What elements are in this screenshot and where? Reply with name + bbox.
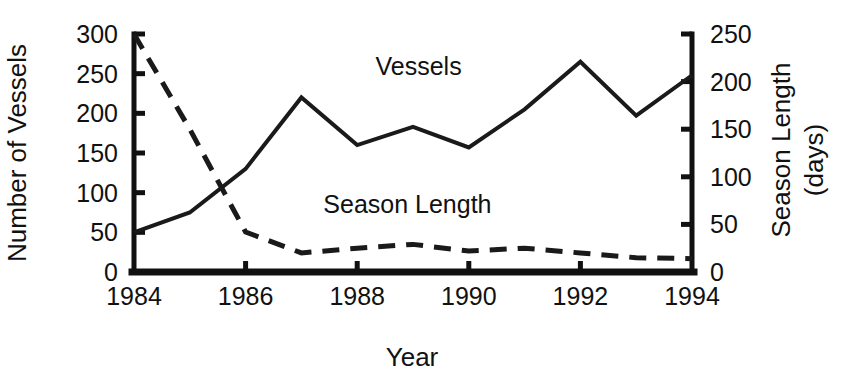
bottom-tick-label: 1990 <box>441 282 497 310</box>
right-tick-label: 200 <box>710 68 752 96</box>
left-tick-label: 300 <box>76 20 118 48</box>
bottom-tick-label: 1986 <box>218 282 274 310</box>
chart-container: 050100150200250300 198419861988199019921… <box>0 0 851 383</box>
bottom-tick-label: 1992 <box>553 282 609 310</box>
left-tick-label: 50 <box>90 218 118 246</box>
left-tick-label: 150 <box>76 139 118 167</box>
left-axis-tick-labels: 050100150200250300 <box>76 20 118 286</box>
bottom-tick-label: 1984 <box>106 282 162 310</box>
series-label-vessels: Vessels <box>375 52 461 80</box>
right-tick-label: 0 <box>710 258 724 286</box>
right-tick-label: 150 <box>710 115 752 143</box>
bottom-axis-group: 198419861988199019921994 <box>106 261 720 310</box>
left-tick-label: 100 <box>76 179 118 207</box>
bottom-axis-title: Year <box>386 342 439 372</box>
right-axis-title-line2: (days) <box>799 124 829 196</box>
left-tick-label: 200 <box>76 99 118 127</box>
right-axis-title-line1: Season Length <box>766 63 796 238</box>
right-tick-label: 250 <box>710 20 752 48</box>
right-tick-label: 50 <box>710 210 738 238</box>
left-tick-label: 250 <box>76 60 118 88</box>
series-label-season-length: Season Length <box>323 190 491 218</box>
right-axis-tick-labels: 050100150200250 <box>710 20 752 286</box>
bottom-tick-label: 1994 <box>664 282 720 310</box>
bottom-axis-tick-labels: 198419861988199019921994 <box>106 282 720 310</box>
right-tick-label: 100 <box>710 163 752 191</box>
left-axis-group: 050100150200250300 <box>76 20 145 286</box>
left-axis-title: Number of Vessels <box>2 44 32 262</box>
line-chart-figure: 050100150200250300 198419861988199019921… <box>0 0 851 383</box>
right-axis-group: 050100150200250 <box>681 20 752 286</box>
bottom-tick-label: 1988 <box>329 282 385 310</box>
